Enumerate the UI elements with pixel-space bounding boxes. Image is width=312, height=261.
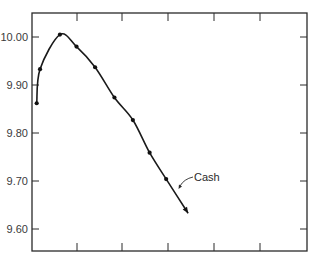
data-point [58, 33, 62, 37]
data-markers [35, 33, 189, 214]
y-tick-label: 10.00 [0, 31, 28, 43]
data-point [148, 151, 152, 155]
plot-frame [32, 13, 307, 251]
y-axis: 10.009.909.809.709.60 [0, 31, 307, 235]
cash-curve [37, 34, 188, 213]
data-point [93, 65, 97, 69]
y-tick-label: 9.90 [7, 79, 28, 91]
y-tick-label: 9.60 [7, 223, 28, 235]
annotation-arrow-icon [180, 177, 193, 186]
data-point [74, 45, 78, 49]
data-point [35, 101, 39, 105]
chart: 10.009.909.809.709.60 Cash [0, 0, 312, 261]
y-tick-label: 9.80 [7, 127, 28, 139]
plot-border [32, 13, 307, 251]
cash-annotation: Cash [179, 171, 220, 189]
y-tick-label: 9.70 [7, 175, 28, 187]
data-point [131, 118, 135, 122]
x-axis [77, 13, 260, 251]
data-point [38, 67, 42, 71]
data-point [164, 177, 168, 181]
data-point [112, 95, 116, 99]
cash-label: Cash [194, 171, 220, 183]
